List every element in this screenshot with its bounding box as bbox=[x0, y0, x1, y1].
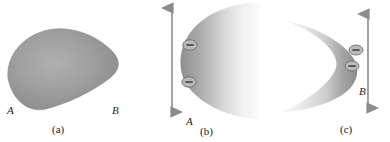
negative-charge-c2 bbox=[345, 61, 359, 71]
caption-panel-b: (b) bbox=[200, 126, 213, 137]
panel-a: A B (a) bbox=[0, 0, 130, 142]
caption-panel-c: (c) bbox=[340, 124, 352, 135]
conductor-body-b bbox=[180, 2, 260, 119]
negative-charge-c1 bbox=[349, 45, 363, 55]
conductor-body-a bbox=[8, 29, 119, 110]
negative-charge-b1 bbox=[183, 40, 197, 50]
panel-c: B (c) bbox=[260, 0, 390, 142]
panel-a-graphic bbox=[0, 0, 130, 142]
label-point-a: A bbox=[7, 105, 14, 116]
label-point-a: A bbox=[186, 116, 193, 127]
physics-figure: A B (a) bbox=[0, 0, 390, 142]
panel-b-graphic bbox=[130, 0, 260, 142]
caption-panel-a: (a) bbox=[52, 124, 64, 135]
panel-b: A (b) bbox=[130, 0, 260, 142]
label-point-b: B bbox=[112, 105, 119, 116]
label-point-b: B bbox=[359, 86, 366, 97]
panel-c-graphic bbox=[260, 0, 390, 142]
negative-charge-b2 bbox=[182, 77, 196, 87]
